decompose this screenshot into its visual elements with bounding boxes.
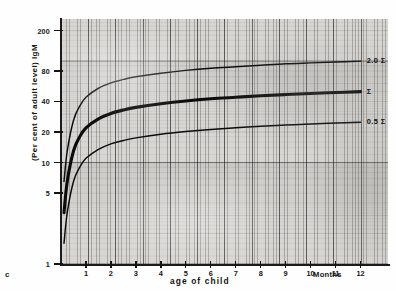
figure-corner-mark: c: [5, 270, 9, 279]
x-tick: [85, 261, 86, 268]
y-tick: [54, 30, 63, 31]
x-axis-unit-label: Months: [313, 270, 342, 279]
x-tick-label: 2: [99, 269, 123, 278]
y-tick: [54, 192, 63, 193]
y-tick: [54, 263, 63, 264]
curve-label: 2.0 Σ: [367, 56, 386, 65]
x-tick-label: 12: [349, 269, 373, 278]
figure-canvas: 1510204080200 123456789101112 2.0 ΣΣ0.5 …: [0, 0, 396, 291]
x-axis-title: age of child: [170, 276, 230, 286]
y-tick-label: 1: [10, 260, 50, 269]
x-tick: [335, 261, 336, 268]
curve-layer: [61, 19, 388, 264]
x-tick-label: 9: [274, 269, 298, 278]
x-tick-label: 3: [124, 269, 148, 278]
curve-label: 0.5 Σ: [367, 117, 386, 126]
x-tick: [185, 261, 186, 268]
x-tick: [135, 261, 136, 268]
y-tick: [54, 101, 63, 102]
x-tick: [285, 261, 286, 268]
x-tick-label: 8: [249, 269, 273, 278]
x-tick: [210, 261, 211, 268]
y-tick: [54, 131, 63, 132]
x-tick: [235, 261, 236, 268]
y-tick: [54, 162, 63, 163]
y-axis-title: (Per cent of adult level) IgM: [30, 3, 39, 203]
plot-area: [61, 19, 388, 264]
x-tick: [160, 261, 161, 268]
y-tick: [54, 70, 63, 71]
x-tick: [360, 261, 361, 268]
y-axis-line: [60, 18, 62, 266]
x-tick-label: 1: [74, 269, 98, 278]
x-tick: [110, 261, 111, 268]
x-tick: [310, 261, 311, 268]
x-tick: [260, 261, 261, 268]
curve-label: Σ: [367, 87, 372, 96]
